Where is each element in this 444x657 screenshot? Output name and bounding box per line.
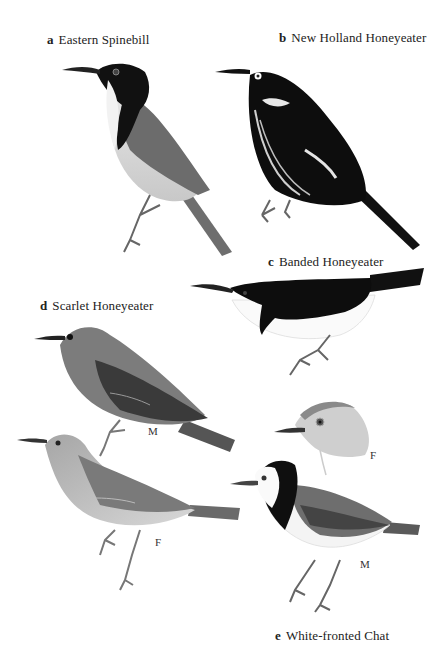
sex-label-scarlet-female: F <box>155 536 161 548</box>
caption-name: Banded Honeyeater <box>279 254 384 269</box>
new-holland-honeyeater-illustration <box>215 69 420 250</box>
caption-letter: c <box>268 254 274 269</box>
caption-name: New Holland Honeyeater <box>291 30 426 45</box>
bird-plate: aEastern Spinebill bNew Holland Honeyeat… <box>0 0 444 657</box>
caption-new-holland-honeyeater: bNew Holland Honeyeater <box>279 30 426 46</box>
caption-letter: e <box>275 628 281 643</box>
caption-name: White-fronted Chat <box>286 628 389 643</box>
caption-eastern-spinebill: aEastern Spinebill <box>47 32 150 48</box>
bird-illustrations <box>0 0 444 657</box>
eastern-spinebill-illustration <box>62 64 232 256</box>
scarlet-honeyeater-female-illustration <box>17 434 240 590</box>
caption-scarlet-honeyeater: dScarlet Honeyeater <box>40 298 153 314</box>
caption-name: Scarlet Honeyeater <box>52 298 153 313</box>
caption-letter: d <box>40 298 47 313</box>
sex-label-chat-female: F <box>370 449 376 461</box>
caption-white-fronted-chat: eWhite-fronted Chat <box>275 628 389 644</box>
caption-banded-honeyeater: cBanded Honeyeater <box>268 254 383 270</box>
caption-letter: a <box>47 32 54 47</box>
sex-label-scarlet-male: M <box>148 425 158 437</box>
banded-honeyeater-illustration <box>190 268 424 375</box>
caption-letter: b <box>279 30 286 45</box>
caption-name: Eastern Spinebill <box>59 32 150 47</box>
sex-label-chat-male: M <box>360 558 370 570</box>
white-fronted-chat-male-illustration <box>230 461 420 612</box>
